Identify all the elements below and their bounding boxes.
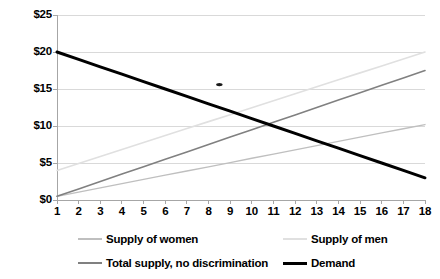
x-tick-label: 16 (370, 205, 394, 217)
y-tick-label: $10 (6, 120, 52, 131)
legend-item[interactable]: Total supply, no discrimination (78, 252, 268, 274)
x-tick-label: 15 (348, 205, 372, 217)
legend-label: Supply of men (311, 233, 388, 245)
y-tick-label: $20 (6, 46, 52, 57)
series-line-3 (57, 52, 425, 178)
legend-swatch-icon (283, 238, 307, 240)
x-tick-label: 7 (175, 205, 199, 217)
x-tick-label: 13 (305, 205, 329, 217)
marker-dot (216, 83, 222, 86)
x-tick-label: 6 (153, 205, 177, 217)
legend-row: Supply of womenSupply of men (0, 228, 440, 250)
legend-swatch-icon (78, 238, 102, 239)
x-tick-label: 2 (67, 205, 91, 217)
y-tick-label: $0 (6, 194, 52, 205)
legend-item[interactable]: Demand (283, 252, 355, 274)
x-tick-label: 10 (240, 205, 264, 217)
data-series-group (57, 52, 425, 196)
legend-label: Supply of women (106, 233, 198, 245)
x-tick-label: 14 (326, 205, 350, 217)
x-tick-label: 5 (132, 205, 156, 217)
supply-demand-chart: $0$5$10$15$20$25 12345678910111213141516… (0, 0, 440, 279)
legend-swatch-icon (78, 262, 102, 264)
x-tick-label: 9 (218, 205, 242, 217)
x-tick-label: 8 (197, 205, 221, 217)
y-axis-labels: $0$5$10$15$20$25 (0, 0, 52, 225)
chart-legend: Supply of womenSupply of menTotal supply… (0, 228, 440, 279)
x-tick-label: 11 (261, 205, 285, 217)
gridlines (57, 15, 425, 200)
x-tick-label: 4 (110, 205, 134, 217)
x-tick-marks (57, 200, 425, 204)
x-tick-label: 17 (391, 205, 415, 217)
legend-swatch-icon (283, 262, 307, 265)
x-tick-label: 18 (413, 205, 437, 217)
plot-area: $0$5$10$15$20$25 (0, 0, 440, 225)
legend-label: Demand (311, 257, 355, 269)
x-tick-label: 3 (88, 205, 112, 217)
y-tick-label: $25 (6, 9, 52, 20)
legend-item[interactable]: Supply of men (283, 228, 388, 250)
x-tick-label: 1 (45, 205, 69, 217)
plot-svg (0, 0, 440, 225)
legend-label: Total supply, no discrimination (106, 257, 268, 269)
x-tick-label: 12 (283, 205, 307, 217)
axis-lines (53, 15, 425, 200)
y-tick-label: $15 (6, 83, 52, 94)
annotation-group (216, 83, 222, 86)
x-axis-labels: 123456789101112131415161718 (57, 205, 425, 223)
y-tick-label: $5 (6, 157, 52, 168)
legend-item[interactable]: Supply of women (78, 228, 198, 250)
legend-row: Total supply, no discriminationDemand (0, 252, 440, 274)
